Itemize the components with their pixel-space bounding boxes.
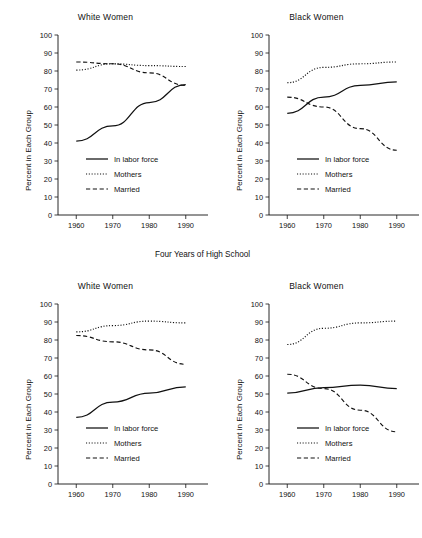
legend-label-dotted: Mothers	[325, 170, 353, 179]
y-tick-label: 80	[255, 67, 263, 76]
y-tick-label: 70	[44, 354, 52, 363]
y-tick-label: 0	[259, 211, 263, 220]
x-tick-label: 1990	[389, 221, 405, 230]
y-tick-label: 40	[44, 139, 52, 148]
y-tick-label: 0	[259, 480, 263, 489]
x-tick-label: 1980	[141, 490, 157, 499]
series-line-solid	[287, 385, 397, 393]
y-tick-label: 80	[255, 336, 263, 345]
y-tick-label: 30	[255, 426, 263, 435]
legend-label-solid: In labor force	[325, 424, 369, 433]
x-tick-label: 1990	[389, 490, 405, 499]
legend-label-solid: In labor force	[114, 155, 158, 164]
series-line-solid	[287, 82, 397, 114]
x-tick-label: 1960	[68, 490, 84, 499]
y-tick-label: 40	[255, 408, 263, 417]
y-tick-label: 100	[40, 31, 52, 40]
y-tick-label: 0	[48, 211, 52, 220]
y-tick-label: 50	[255, 390, 263, 399]
x-tick-label: 1980	[352, 221, 368, 230]
y-tick-label: 60	[44, 103, 52, 112]
series-line-solid	[76, 387, 186, 418]
y-tick-label: 40	[44, 408, 52, 417]
y-tick-label: 20	[255, 175, 263, 184]
y-tick-label: 0	[48, 480, 52, 489]
x-tick-label: 1970	[105, 221, 121, 230]
x-tick-label: 1960	[279, 490, 295, 499]
chart-plot-area: 01020304050607080901001960197019801990In…	[0, 269, 211, 538]
y-tick-label: 10	[44, 462, 52, 471]
series-line-solid	[76, 85, 186, 142]
chart-panel-bottom-right: Black WomenPercent in Each Group01020304…	[211, 269, 422, 538]
x-tick-label: 1990	[178, 221, 194, 230]
y-tick-label: 50	[255, 121, 263, 130]
y-tick-label: 30	[44, 426, 52, 435]
y-tick-label: 40	[255, 139, 263, 148]
y-tick-label: 50	[44, 121, 52, 130]
y-tick-label: 20	[44, 175, 52, 184]
y-tick-label: 90	[44, 318, 52, 327]
y-tick-label: 90	[44, 49, 52, 58]
y-tick-label: 80	[44, 67, 52, 76]
y-tick-label: 30	[44, 157, 52, 166]
y-tick-label: 60	[255, 372, 263, 381]
y-tick-label: 100	[40, 300, 52, 309]
chart-panel-top-right: Black WomenPercent in Each Group01020304…	[211, 0, 422, 269]
legend-label-dashed: Married	[325, 185, 351, 194]
y-tick-label: 80	[44, 336, 52, 345]
legend-label-dashed: Married	[114, 185, 140, 194]
legend-label-dotted: Mothers	[114, 170, 142, 179]
x-tick-label: 1990	[178, 490, 194, 499]
y-tick-label: 60	[255, 103, 263, 112]
y-tick-label: 60	[44, 372, 52, 381]
series-line-dotted	[76, 64, 186, 70]
y-tick-label: 100	[251, 300, 263, 309]
y-tick-label: 90	[255, 49, 263, 58]
legend-label-dashed: Married	[325, 454, 351, 463]
y-tick-label: 30	[255, 157, 263, 166]
y-tick-label: 20	[255, 444, 263, 453]
y-tick-label: 70	[44, 85, 52, 94]
legend-label-dotted: Mothers	[325, 439, 353, 448]
series-line-dashed	[287, 97, 397, 150]
series-line-dotted	[76, 321, 186, 332]
x-tick-label: 1960	[279, 221, 295, 230]
x-tick-label: 1980	[352, 490, 368, 499]
y-tick-label: 10	[255, 193, 263, 202]
chart-plot-area: 01020304050607080901001960197019801990In…	[211, 269, 422, 538]
y-tick-label: 50	[44, 390, 52, 399]
y-tick-label: 70	[255, 354, 263, 363]
x-tick-label: 1970	[316, 490, 332, 499]
chart-plot-area: 01020304050607080901001960197019801990In…	[211, 0, 422, 269]
series-line-dashed	[76, 336, 186, 365]
series-line-dashed	[76, 62, 186, 85]
chart-plot-area: 01020304050607080901001960197019801990In…	[0, 0, 211, 269]
legend-label-dashed: Married	[114, 454, 140, 463]
x-tick-label: 1970	[316, 221, 332, 230]
y-tick-label: 20	[44, 444, 52, 453]
y-tick-label: 100	[251, 31, 263, 40]
y-tick-label: 70	[255, 85, 263, 94]
series-line-dotted	[287, 321, 397, 344]
y-tick-label: 10	[255, 462, 263, 471]
figure-caption: Four Years of High School	[155, 250, 250, 259]
x-tick-label: 1980	[141, 221, 157, 230]
legend-label-solid: In labor force	[325, 155, 369, 164]
x-tick-label: 1970	[105, 490, 121, 499]
series-line-dotted	[287, 62, 397, 83]
y-tick-label: 10	[44, 193, 52, 202]
legend-label-dotted: Mothers	[114, 439, 142, 448]
legend-label-solid: In labor force	[114, 424, 158, 433]
chart-panel-top-left: White WomenPercent in Each Group01020304…	[0, 0, 211, 269]
y-tick-label: 90	[255, 318, 263, 327]
x-tick-label: 1960	[68, 221, 84, 230]
chart-panel-bottom-left: White WomenPercent in Each Group01020304…	[0, 269, 211, 538]
